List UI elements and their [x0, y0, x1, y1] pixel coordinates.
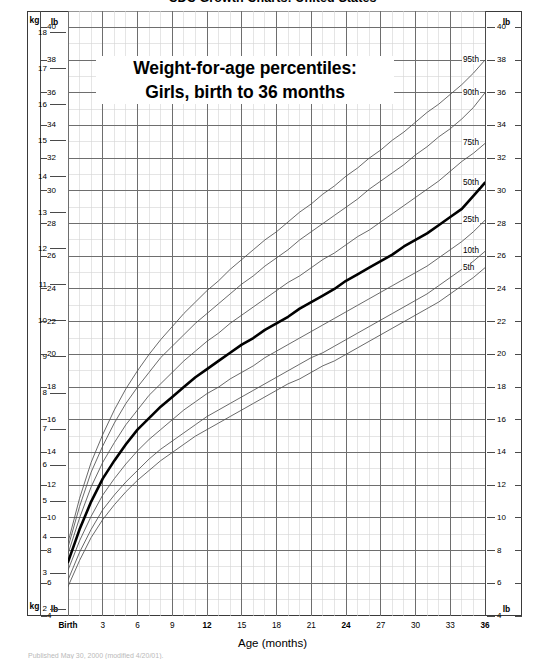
- x-axis-title: Age (months): [0, 637, 545, 649]
- kg-tick-mark: [50, 573, 66, 574]
- x-tick-27: 27: [376, 621, 385, 630]
- x-tick-21: 21: [307, 621, 316, 630]
- lb-tick-mark: [515, 60, 522, 61]
- lb-tick-mark: [515, 419, 522, 420]
- lb-tick-left-24: 24: [47, 284, 64, 293]
- lb-tick-right-28: 28: [497, 219, 515, 228]
- lb-tick-mark: [487, 452, 495, 453]
- lb-tick-mark: [41, 288, 47, 289]
- lb-tick-left-40: 40: [47, 22, 64, 31]
- percentile-label-25th: 25th: [462, 215, 480, 224]
- lb-tick-right-38: 38: [497, 55, 515, 64]
- lb-tick-mark: [487, 60, 495, 61]
- kg-tick-mark: [50, 104, 66, 105]
- lb-tick-right-18: 18: [497, 382, 515, 391]
- kg-tick-mark: [50, 32, 66, 33]
- x-tick-33: 33: [446, 621, 455, 630]
- lb-tick-mark: [515, 616, 522, 617]
- kg-tick-mark: [50, 501, 66, 502]
- lb-tick-left-34: 34: [47, 120, 64, 129]
- x-tick-9: 9: [170, 621, 175, 630]
- lb-tick-right-16: 16: [497, 415, 515, 424]
- lb-tick-mark: [41, 125, 47, 126]
- x-tick-18: 18: [272, 621, 281, 630]
- footnote: Published May 30, 2000 (modified 4/20/01…: [28, 652, 528, 659]
- lb-tick-mark: [41, 27, 47, 28]
- lb-tick-mark: [487, 517, 495, 518]
- lb-tick-mark: [487, 158, 495, 159]
- lb-tick-mark: [515, 321, 522, 322]
- percentile-label-10th: 10th: [462, 246, 480, 255]
- x-tick-6: 6: [135, 621, 140, 630]
- kg-tick-mark: [50, 465, 66, 466]
- page-title: CDC Growth Charts: United States: [0, 0, 545, 5]
- lb-tick-mark: [41, 550, 47, 551]
- lb-tick-right-8: 8: [497, 546, 515, 555]
- lb-tick-mark: [487, 387, 495, 388]
- lb-column-divider-right: [485, 11, 486, 616]
- kg-tick-6: 6: [28, 460, 47, 469]
- lb-tick-mark: [41, 616, 47, 617]
- lb-tick-left-10: 10: [47, 513, 64, 522]
- lb-tick-right-36: 36: [497, 88, 515, 97]
- lb-tick-left-30: 30: [47, 186, 64, 195]
- lb-tick-left-6: 6: [47, 578, 64, 587]
- lb-tick-mark: [487, 321, 495, 322]
- kg-tick-13: 13: [28, 208, 47, 217]
- lb-tick-left-4: 4: [47, 611, 64, 620]
- lb-tick-mark: [41, 60, 47, 61]
- lb-tick-mark: [487, 485, 495, 486]
- lb-tick-mark: [515, 517, 522, 518]
- lb-tick-left-16: 16: [47, 415, 64, 424]
- lb-tick-left-12: 12: [47, 480, 64, 489]
- chart-annotation: Weight-for-age percentiles: Girls, birth…: [96, 56, 394, 104]
- lb-tick-mark: [41, 256, 47, 257]
- lb-tick-mark: [487, 27, 495, 28]
- lb-tick-mark: [487, 256, 495, 257]
- lb-tick-right-30: 30: [497, 186, 515, 195]
- percentile-label-75th: 75th: [462, 138, 480, 147]
- lb-tick-right-4: 4: [497, 611, 515, 620]
- lb-tick-left-26: 26: [47, 251, 64, 260]
- lb-tick-mark: [515, 354, 522, 355]
- lb-tick-mark: [487, 354, 495, 355]
- lb-tick-right-40: 40: [497, 22, 515, 31]
- lb-tick-right-34: 34: [497, 120, 515, 129]
- annotation-line-1: Weight-for-age percentiles:: [96, 56, 394, 80]
- x-tick-3: 3: [100, 621, 105, 630]
- lb-tick-mark: [41, 583, 47, 584]
- lb-tick-mark: [487, 92, 495, 93]
- lb-tick-mark: [41, 321, 47, 322]
- lb-tick-mark: [41, 485, 47, 486]
- lb-tick-right-26: 26: [497, 251, 515, 260]
- lb-tick-right-6: 6: [497, 578, 515, 587]
- lb-tick-mark: [41, 387, 47, 388]
- kg-unit-header: kg: [28, 15, 41, 25]
- kg-tick-12: 12: [28, 244, 47, 253]
- kg-tick-mark: [50, 429, 66, 430]
- lb-tick-left-14: 14: [47, 447, 64, 456]
- kg-tick-mark: [50, 176, 66, 177]
- lb-tick-left-22: 22: [47, 317, 64, 326]
- lb-tick-mark: [41, 517, 47, 518]
- percentile-label-50th: 50th: [462, 178, 480, 187]
- lb-tick-mark: [515, 452, 522, 453]
- percentile-label-5th: 5th: [462, 263, 475, 272]
- lb-tick-mark: [487, 583, 495, 584]
- kg-tick-3: 3: [28, 568, 47, 577]
- lb-tick-mark: [515, 583, 522, 584]
- percentile-label-95th: 95th: [462, 55, 480, 64]
- lb-tick-left-20: 20: [47, 349, 64, 358]
- lb-tick-left-8: 8: [47, 546, 64, 555]
- kg-tick-2: 2: [28, 604, 47, 613]
- lb-tick-mark: [515, 550, 522, 551]
- kg-tick-mark: [50, 537, 66, 538]
- lb-tick-mark: [515, 92, 522, 93]
- x-tick-12: 12: [202, 621, 211, 630]
- lb-tick-mark: [41, 419, 47, 420]
- kg-tick-17: 17: [28, 64, 47, 73]
- lb-tick-mark: [487, 419, 495, 420]
- lb-tick-mark: [41, 158, 47, 159]
- lb-tick-right-32: 32: [497, 153, 515, 162]
